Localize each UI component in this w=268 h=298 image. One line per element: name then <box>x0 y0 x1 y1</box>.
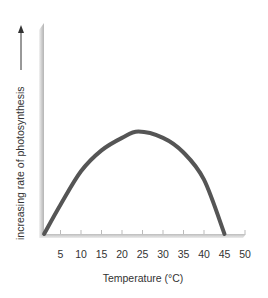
y-axis-title-group: increasing rate of photosynthesis <box>14 25 26 240</box>
y-axis <box>39 23 44 238</box>
chart: 5101520253035404550 increasing rate of p… <box>0 0 268 298</box>
x-axis <box>39 234 246 238</box>
x-tick-label: 20 <box>116 248 128 260</box>
x-tick-label: 35 <box>178 248 190 260</box>
x-tick-label: 5 <box>58 248 64 260</box>
x-tick-label: 10 <box>75 248 87 260</box>
x-tick-label: 25 <box>137 248 149 260</box>
x-tick-label: 45 <box>219 248 231 260</box>
x-tick-label: 50 <box>239 248 251 260</box>
y-axis-title: increasing rate of photosynthesis <box>14 86 26 240</box>
x-tick-label: 15 <box>96 248 108 260</box>
arrow-up-icon <box>18 25 24 33</box>
x-axis-ticks <box>61 230 246 234</box>
x-tick-label: 30 <box>157 248 169 260</box>
x-axis-tick-labels: 5101520253035404550 <box>58 248 251 260</box>
x-axis-title: Temperature (°C) <box>103 272 184 284</box>
x-tick-label: 40 <box>198 248 210 260</box>
data-series-rate-of-photosynthesis <box>44 132 224 234</box>
